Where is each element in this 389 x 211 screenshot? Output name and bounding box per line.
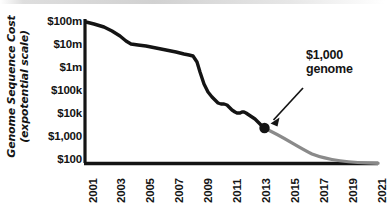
genome-annotation-label: $1,000 genome xyxy=(306,48,353,76)
x-tick-2013: 2013 xyxy=(261,178,273,203)
x-tick-2005: 2005 xyxy=(145,178,157,203)
annotation-line1: $1,000 xyxy=(306,48,353,62)
y-axis-title-line2: (expotential scale) xyxy=(17,30,30,143)
y-axis-title: Genome Sequence Cost (expotential scale) xyxy=(6,7,31,167)
x-tick-2017: 2017 xyxy=(319,178,331,203)
y-axis-title-line1: Genome Sequence Cost xyxy=(5,15,18,157)
x-tick-2009: 2009 xyxy=(203,178,215,203)
x-tick-2015: 2015 xyxy=(290,178,302,203)
x-tick-2021: 2021 xyxy=(377,178,389,203)
annotation-line2: genome xyxy=(306,62,353,76)
x-tick-2007: 2007 xyxy=(174,178,186,203)
x-tick-2001: 2001 xyxy=(88,178,100,203)
x-tick-2019: 2019 xyxy=(348,178,360,203)
x-tick-2011: 2011 xyxy=(232,179,244,203)
x-tick-2003: 2003 xyxy=(116,178,128,203)
